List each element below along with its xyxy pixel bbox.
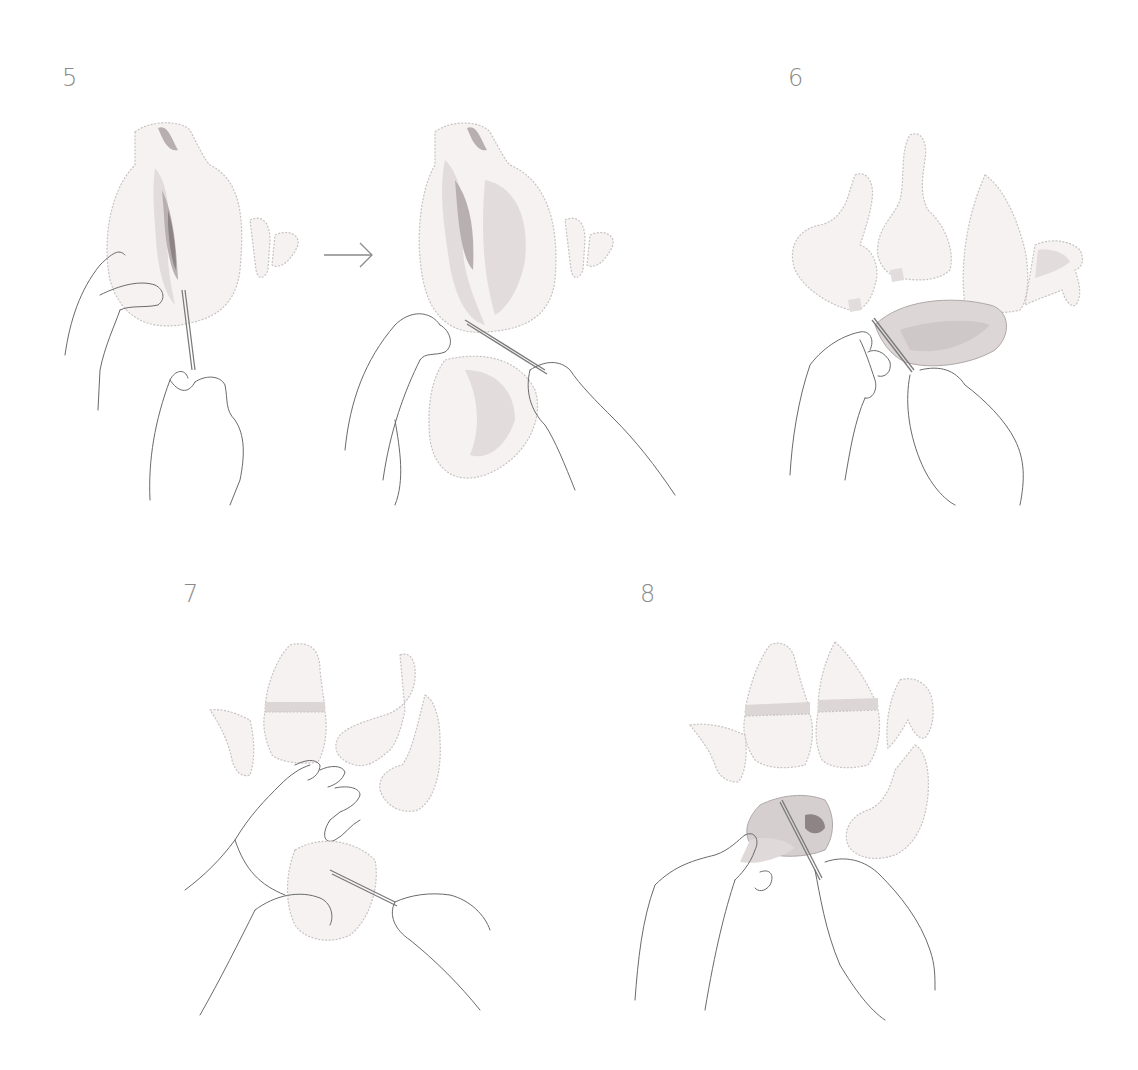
right-hand xyxy=(150,371,244,505)
chicken-carcass xyxy=(107,123,298,326)
chicken-drumstick xyxy=(380,695,441,811)
chicken-leg xyxy=(336,654,415,766)
chicken-leg-right xyxy=(877,134,951,282)
chicken-fillet-under-hand xyxy=(288,841,377,940)
chicken-breast-piece xyxy=(264,644,326,763)
left-hand xyxy=(790,332,890,480)
illustration-step-5b xyxy=(335,120,695,510)
illustration-step-8 xyxy=(620,630,960,1030)
right-hand xyxy=(528,363,675,496)
chicken-leg-left xyxy=(792,174,876,312)
illustration-step-6 xyxy=(780,100,1100,520)
breast-fillet xyxy=(875,300,1006,366)
chicken-breast-quarter-1 xyxy=(744,643,813,768)
chicken-wing xyxy=(1025,241,1082,306)
right-hand xyxy=(908,368,1024,505)
right-hand xyxy=(815,859,935,1020)
step-number-7: 7 xyxy=(183,582,198,606)
chicken-wing-right xyxy=(887,679,933,748)
chicken-breast-quarter-2 xyxy=(816,642,879,768)
chicken-wing-left xyxy=(210,710,254,776)
illustration-step-5a xyxy=(60,120,320,510)
step-number-8: 8 xyxy=(640,582,655,606)
chicken-carcass-opened xyxy=(419,123,613,478)
illustration-step-7 xyxy=(180,640,510,1030)
step-number-5: 5 xyxy=(62,66,77,90)
chicken-breast-whole xyxy=(963,175,1028,312)
step-number-6: 6 xyxy=(788,66,803,90)
chicken-wing-left xyxy=(690,724,746,782)
